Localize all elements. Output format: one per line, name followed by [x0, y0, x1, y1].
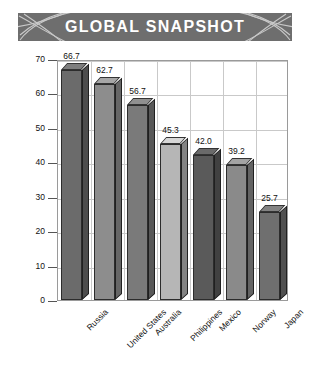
bar-front-face — [160, 144, 180, 300]
bar: 42.0 — [193, 155, 213, 300]
y-axis-tick-label: 0 — [40, 295, 45, 305]
bar-side-face — [148, 98, 155, 300]
y-axis-tick-label: 40 — [36, 157, 45, 167]
bar: 45.3 — [160, 144, 180, 300]
bar: 66.7 — [61, 70, 81, 300]
gridline-vertical — [223, 61, 224, 300]
gridline-horizontal — [58, 61, 287, 62]
bar-side-face — [115, 78, 122, 300]
bar-value-label: 39.2 — [228, 146, 245, 156]
y-axis-tick: 40 — [48, 163, 57, 164]
y-axis-tick: 30 — [48, 198, 57, 199]
gridline-vertical — [256, 61, 257, 300]
bar-side-face — [214, 149, 221, 300]
global-snapshot-banner: GLOBAL SNAPSHOT — [18, 13, 292, 41]
y-axis-tick: 70 — [48, 60, 57, 61]
bar-value-label: 66.7 — [63, 51, 80, 61]
bar-side-face — [280, 205, 287, 300]
x-axis-label: Norway — [251, 307, 278, 334]
bar-value-label: 42.0 — [195, 136, 212, 146]
bar-side-face — [181, 138, 188, 300]
bar-front-face — [61, 70, 81, 300]
y-axis-tick: 20 — [48, 232, 57, 233]
gridline-vertical — [190, 61, 191, 300]
bar-value-label: 45.3 — [162, 125, 179, 135]
y-axis-tick-label: 70 — [36, 54, 45, 64]
gridline-horizontal — [58, 95, 287, 96]
y-axis-tick: 0 — [48, 301, 57, 302]
bar-front-face — [94, 84, 114, 300]
y-axis-tick-label: 30 — [36, 192, 45, 202]
bar-side-face — [247, 159, 254, 300]
y-axis-tick-label: 10 — [36, 261, 45, 271]
y-axis-tick-label: 20 — [36, 226, 45, 236]
y-axis-tick: 10 — [48, 267, 57, 268]
gridline-vertical — [124, 61, 125, 300]
bar-front-face — [259, 212, 279, 300]
bar-value-label: 56.7 — [129, 86, 146, 96]
bar-value-label: 25.7 — [261, 193, 278, 203]
gridline-vertical — [91, 61, 92, 300]
banner-title: GLOBAL SNAPSHOT — [18, 13, 292, 41]
bar: 62.7 — [94, 84, 114, 300]
y-axis-tick-label: 60 — [36, 88, 45, 98]
bar-front-face — [193, 155, 213, 300]
bar-value-label: 62.7 — [96, 65, 113, 75]
bar-front-face — [127, 105, 147, 300]
y-axis-tick-label: 50 — [36, 123, 45, 133]
gridline-vertical — [157, 61, 158, 300]
bar: 56.7 — [127, 105, 147, 300]
x-axis-label: Japan — [282, 307, 305, 330]
y-axis-tick: 60 — [48, 94, 57, 95]
bar: 25.7 — [259, 212, 279, 300]
y-axis-tick: 50 — [48, 129, 57, 130]
bar-side-face — [82, 64, 89, 300]
plot-area: 66.762.756.745.342.039.225.7 — [57, 60, 288, 301]
bar-chart: Percent Claiming Science Will Help 01020… — [0, 44, 309, 384]
x-axis-label: Russia — [85, 307, 110, 332]
bar: 39.2 — [226, 165, 246, 300]
bar-front-face — [226, 165, 246, 300]
